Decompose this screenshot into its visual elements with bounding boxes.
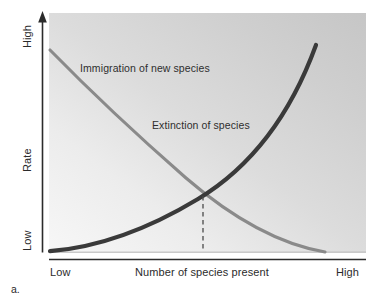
series-label-immigration: Immigration of new species — [80, 62, 210, 74]
y-axis-high-label: High — [21, 25, 33, 48]
plot-vector-layer — [0, 0, 385, 303]
x-axis-title: Number of species present — [135, 266, 269, 278]
figure-island-biogeography: High Rate Low Low Number of species pres… — [0, 0, 385, 303]
series-label-extinction: Extinction of species — [152, 119, 250, 131]
y-axis-title: Rate — [21, 148, 33, 172]
y-axis-low-label: Low — [21, 231, 33, 251]
figure-caption-label: a. — [11, 283, 20, 295]
y-axis-line — [38, 11, 47, 253]
immigration-curve — [50, 50, 325, 252]
extinction-curve — [50, 45, 316, 251]
x-axis-high-label: High — [336, 266, 359, 278]
x-axis-low-label: Low — [50, 266, 70, 278]
up-arrow-icon — [38, 11, 47, 23]
